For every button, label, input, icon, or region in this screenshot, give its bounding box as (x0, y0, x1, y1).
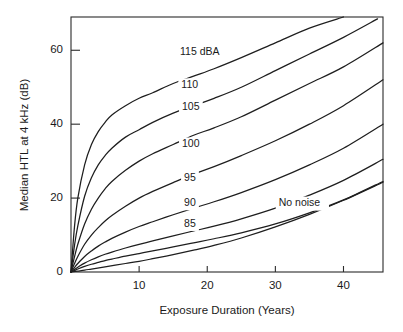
data-curves (71, 17, 383, 272)
curve-labels: 115 dBA110105100959085No noise (177, 45, 329, 231)
y-axis-tick-labels: 0204060 (50, 43, 63, 277)
x-tick-label: 10 (133, 279, 146, 291)
curve-label-90: 90 (184, 196, 196, 208)
x-tick-label: 40 (337, 279, 350, 291)
x-axis-title: Exposure Duration (Years) (159, 304, 294, 316)
curve-label-110: 110 (181, 78, 198, 90)
y-tick-label: 40 (50, 117, 63, 129)
y-axis-title: Median HTL at 4 kHz (dB) (18, 79, 30, 212)
x-tick-label: 20 (201, 279, 214, 291)
line-chart: 10203040 0204060 115 dBA110105100959085N… (0, 0, 403, 332)
y-tick-label: 0 (57, 265, 63, 277)
curve-no-noise (71, 182, 383, 272)
curve-label-115-dba: 115 dBA (180, 45, 220, 57)
y-tick-label: 20 (50, 191, 63, 203)
y-axis-ticks (71, 50, 80, 198)
curve-105 (71, 43, 383, 272)
x-tick-label: 30 (269, 279, 282, 291)
curve-label-no-noise: No noise (279, 196, 321, 208)
y-tick-label: 60 (50, 43, 63, 55)
curve-label-95: 95 (184, 171, 196, 183)
plot-frame (71, 17, 383, 272)
curve-85 (71, 181, 383, 272)
curve-label-100: 100 (182, 137, 200, 149)
chart-figure: 10203040 0204060 115 dBA110105100959085N… (0, 0, 403, 332)
x-axis-tick-labels: 10203040 (133, 279, 350, 291)
curve-label-85: 85 (184, 217, 196, 229)
curve-label-105: 105 (182, 100, 200, 112)
x-axis-ticks (139, 266, 343, 272)
